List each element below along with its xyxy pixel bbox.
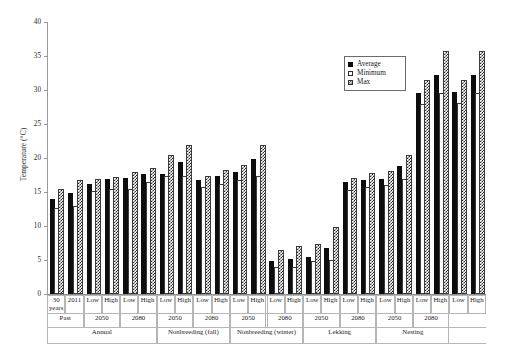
y-tick-label: 40	[23, 18, 41, 26]
x-axis-label-row1: 30years	[47, 295, 65, 313]
bar-group	[47, 22, 65, 294]
x-axis-label-row1: High	[248, 295, 266, 313]
bar-group	[230, 22, 248, 294]
temperature-bar-chart: Temperature (°C) 0510152025303540 30year…	[0, 0, 509, 354]
plot-area	[47, 22, 486, 294]
legend-item-average: Average	[348, 60, 400, 69]
bar-group	[212, 22, 230, 294]
bar-group	[193, 22, 211, 294]
bar-max	[296, 246, 302, 294]
bar-max	[278, 250, 284, 294]
bar-max	[132, 172, 138, 294]
bar-group	[65, 22, 83, 294]
legend-item-minimum: Minimum	[348, 69, 400, 78]
x-axis-label-row1: Low	[449, 295, 467, 313]
x-axis-label-row2: 2050	[157, 313, 194, 327]
bar-group	[157, 22, 175, 294]
x-axis-label-row2: 2080	[193, 313, 230, 327]
x-axis-label-row2: 2080	[413, 313, 450, 327]
x-axis-label-row1: Low	[303, 295, 321, 313]
bar-max	[315, 244, 321, 294]
x-axis-label-row1: High	[285, 295, 303, 313]
x-axis-label-row1: Low	[84, 295, 102, 313]
x-axis-label-row1: Low	[376, 295, 394, 313]
x-axis-label-row3: Lekking	[303, 327, 376, 343]
legend-label-average: Average	[357, 60, 381, 69]
bar-max	[241, 165, 247, 294]
x-axis-label-row1: High	[321, 295, 339, 313]
bar-max	[424, 80, 430, 294]
legend-swatch-average-icon	[348, 62, 353, 67]
bar-max	[186, 145, 192, 294]
x-axis-label-row1: Low	[157, 295, 175, 313]
bar-group	[138, 22, 156, 294]
bar-max	[388, 171, 394, 294]
x-axis-label-row2: 2080	[267, 313, 304, 327]
bar-max	[479, 51, 485, 294]
y-tick-label: 0	[23, 290, 41, 298]
bar-group	[413, 22, 431, 294]
legend-item-max: Max	[348, 78, 400, 87]
bar-group	[102, 22, 120, 294]
bar-max	[205, 176, 211, 294]
x-axis-label-row2: 2080	[120, 313, 157, 327]
bar-group	[84, 22, 102, 294]
y-tick-label: 25	[23, 120, 41, 128]
bar-max	[150, 168, 156, 294]
y-tick-label: 15	[23, 188, 41, 196]
x-axis-label-row3: Annual	[47, 327, 157, 343]
x-axis-label-row3: Nonbreeding (winter)	[230, 327, 303, 343]
x-axis-label-row2: 2050	[376, 313, 413, 327]
bar-group	[449, 22, 467, 294]
bar-group	[120, 22, 138, 294]
x-axis-label-row1: Low	[230, 295, 248, 313]
x-axis-label-row2: 2050	[230, 313, 267, 327]
x-axis-row-separator	[47, 343, 486, 344]
bar-group	[321, 22, 339, 294]
y-tick-label: 20	[23, 154, 41, 162]
y-tick-label: 35	[23, 52, 41, 60]
bar-group	[431, 22, 449, 294]
bar-max	[406, 155, 412, 294]
x-axis-label-row1: High	[431, 295, 449, 313]
x-axis-label-row1: 2011	[65, 295, 83, 313]
x-axis-label-row1: High	[468, 295, 486, 313]
x-axis-label-row2: Past	[47, 313, 84, 327]
x-axis-label-row2: 2050	[84, 313, 121, 327]
x-axis-label-row1: High	[102, 295, 120, 313]
legend-swatch-max-icon	[348, 80, 353, 85]
x-axis-label-row1: Low	[267, 295, 285, 313]
x-axis-label-row1: High	[395, 295, 413, 313]
bar-max	[333, 227, 339, 294]
bar-group	[468, 22, 486, 294]
x-axis-label-row1: Low	[120, 295, 138, 313]
x-axis-label-row1: Low	[413, 295, 431, 313]
legend-swatch-minimum-icon	[348, 71, 353, 76]
legend-label-max: Max	[357, 78, 370, 87]
y-tick-label: 10	[23, 222, 41, 230]
bar-max	[223, 170, 229, 294]
x-axis-label-row1: Low	[340, 295, 358, 313]
bar-max	[443, 51, 449, 294]
bar-max	[77, 180, 83, 294]
bar-group	[248, 22, 266, 294]
bar-max	[113, 177, 119, 294]
bar-max	[461, 80, 467, 294]
bar-max	[260, 145, 266, 294]
x-axis-label-row2: 2080	[340, 313, 377, 327]
x-axis-label-row1: Low	[193, 295, 211, 313]
x-axis-label-row1: High	[138, 295, 156, 313]
x-axis-label-row3: Nesting	[376, 327, 449, 343]
legend: Average Minimum Max	[344, 56, 406, 91]
bar-max	[95, 179, 101, 294]
bar-group	[285, 22, 303, 294]
x-axis-label-row2: 2050	[303, 313, 340, 327]
x-axis-label-row1: High	[358, 295, 376, 313]
x-axis-label-row3: Nonbreeding (fall)	[157, 327, 230, 343]
x-axis-label-row1: High	[175, 295, 193, 313]
bar-max	[369, 173, 375, 294]
x-axis-table-top-border	[47, 295, 486, 296]
bar-group	[303, 22, 321, 294]
y-tick-label: 30	[23, 86, 41, 94]
y-tick-label: 5	[23, 256, 41, 264]
